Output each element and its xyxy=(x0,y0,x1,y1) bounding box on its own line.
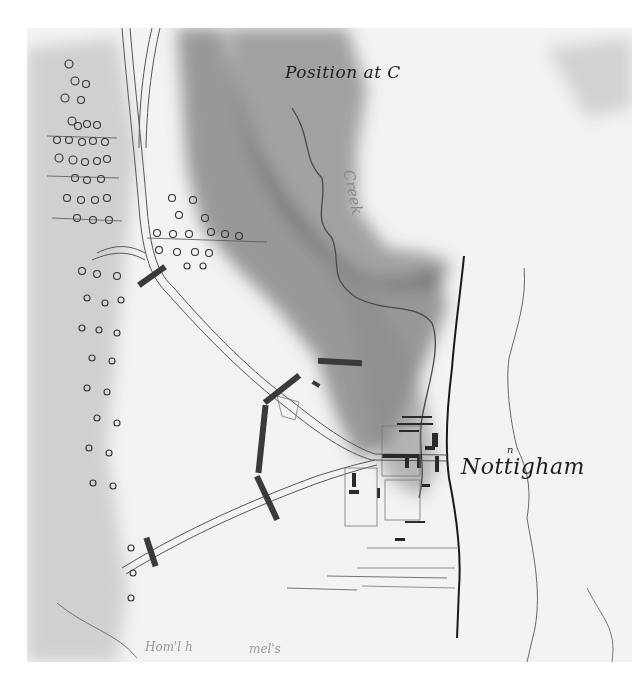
bottom-scrawl-1: Hom'l h xyxy=(145,640,193,654)
map-sheet: Position at C Creek Nottigham n Hom'l h … xyxy=(27,28,632,662)
map-title: Position at C xyxy=(285,62,401,82)
ridge-shading xyxy=(177,28,632,498)
bottom-scrawl-2: mel's xyxy=(249,642,281,656)
map-drawing xyxy=(27,28,632,662)
town-label: Nottigham n xyxy=(461,454,585,479)
town-name: Nottigham xyxy=(461,454,585,479)
town-name-superscript: n xyxy=(507,444,514,455)
river-bank-west xyxy=(447,256,464,638)
western-slope-shading xyxy=(27,38,137,662)
